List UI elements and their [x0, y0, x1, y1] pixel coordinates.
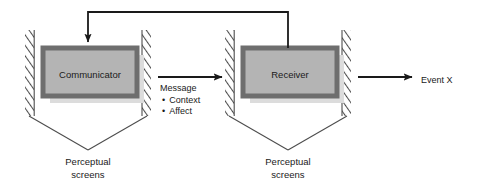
communicator-label: Communicator — [59, 69, 121, 80]
right-perceptual-screens-caption: Perceptual screens — [265, 156, 310, 180]
event-x-label: Event X — [421, 75, 453, 85]
communication-model-diagram: Communicator Receiver Message •Context •… — [0, 0, 479, 192]
left-screen-caption-line2: screens — [71, 169, 105, 180]
message-heading: Message — [160, 83, 197, 93]
message-label-group: Message •Context •Affect — [160, 83, 201, 116]
left-screen-leader-lines — [29, 116, 147, 150]
communicator-node[interactable]: Communicator — [43, 48, 144, 103]
right-screen-caption-line2: screens — [271, 169, 305, 180]
feedback-loop-connector — [88, 12, 288, 48]
bullet-glyph-0: • — [162, 95, 165, 105]
diagram-canvas: Communicator Receiver Message •Context •… — [0, 0, 479, 192]
message-bullet-1: •Affect — [162, 106, 193, 116]
message-bullet-0-label: Context — [169, 95, 201, 105]
receiver-node[interactable]: Receiver — [243, 48, 344, 103]
right-outer-hatch-band — [225, 30, 234, 116]
message-bullet-1-label: Affect — [169, 106, 192, 116]
bullet-glyph-1: • — [162, 106, 165, 116]
right-screen-leader-lines — [229, 116, 347, 150]
left-outer-hatch-band — [25, 30, 34, 116]
left-perceptual-screens-caption: Perceptual screens — [65, 156, 110, 180]
right-screen-caption-line1: Perceptual — [265, 156, 310, 167]
receiver-label: Receiver — [271, 69, 309, 80]
message-bullet-0: •Context — [162, 95, 201, 105]
left-screen-caption-line1: Perceptual — [65, 156, 110, 167]
